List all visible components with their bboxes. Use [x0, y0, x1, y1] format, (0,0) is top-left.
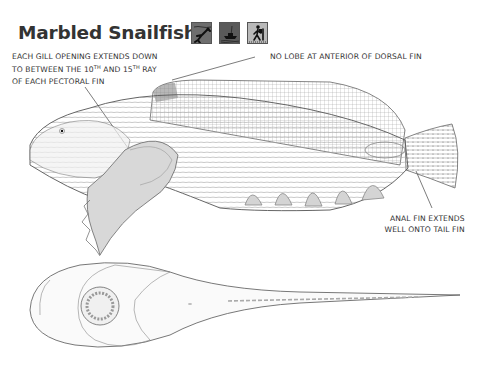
- fish-illustrations: [0, 0, 481, 371]
- dorsal-leader-line: [172, 57, 255, 80]
- ventral-fish-view: [30, 263, 460, 347]
- lateral-fish-view: [30, 80, 458, 256]
